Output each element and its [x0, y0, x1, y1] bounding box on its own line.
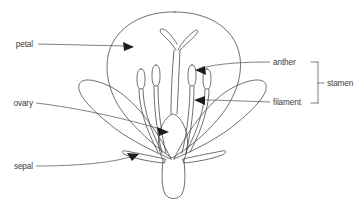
stamen-2-filament-edge	[158, 86, 166, 153]
stamen-3-filament	[182, 86, 190, 153]
arrow-head-filament	[194, 96, 205, 105]
petal-upper-outline	[107, 12, 240, 158]
sepal-right-outline	[183, 151, 226, 163]
arrow-head-anther	[195, 66, 206, 75]
stamen-2-anther	[152, 65, 160, 86]
arrow-head-petal	[123, 42, 134, 51]
stamen-bracket	[311, 62, 324, 103]
stamen-1-anther	[137, 69, 145, 89]
label-ovary: ovary	[13, 99, 34, 108]
sepal-left-outline	[122, 151, 165, 163]
label-sepal: sepal	[14, 162, 33, 171]
style-left-edge	[171, 50, 174, 114]
leader-line-sepal	[36, 157, 130, 166]
stamen-1-filament-edge	[143, 89, 162, 152]
stamen-3-anther	[188, 65, 196, 86]
label-petal: petal	[16, 40, 34, 49]
style-right-edge	[177, 50, 180, 114]
leader-line-anther	[203, 62, 270, 68]
leader-lines	[36, 42, 270, 166]
label-filament: filament	[273, 98, 302, 107]
flower-anatomy-diagram: petal ovary sepal anther filament stamen	[0, 0, 360, 207]
label-anther: anther	[273, 58, 296, 67]
leader-line-ovary	[36, 103, 160, 129]
stigma-right-arm	[178, 30, 198, 50]
stigma-left-arm	[160, 29, 177, 50]
receptacle-stem	[162, 160, 185, 199]
leader-line-petal	[38, 44, 126, 46]
flower-diagram-page: petal ovary sepal anther filament stamen	[0, 0, 360, 207]
label-stamen: stamen	[327, 79, 354, 88]
arrow-head-ovary	[157, 127, 169, 136]
flower-illustration	[79, 12, 266, 199]
